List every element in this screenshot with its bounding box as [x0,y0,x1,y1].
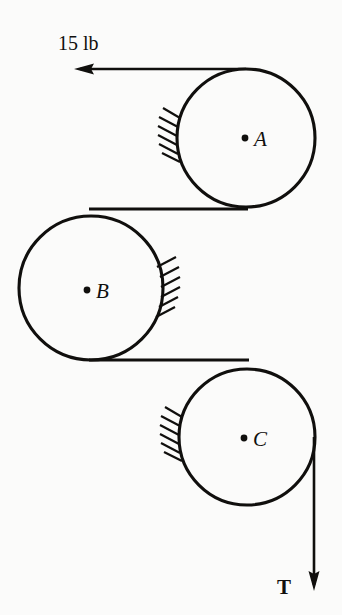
pulley-a-label: A [252,127,267,151]
pulley-b-group: B [19,216,180,360]
applied-force-label: 15 lb [58,32,99,54]
pulley-b [19,216,163,360]
applied-force-arrowhead [74,64,94,75]
pulley-c-center-dot [241,435,248,442]
pulley-a-group: A [158,69,315,207]
pulley-c-group: C [160,369,315,505]
diagram-canvas: A B [0,0,342,615]
pulley-diagram: A B [0,0,342,615]
pulley-b-label: B [96,279,109,303]
pulley-c-label: C [253,427,268,451]
pulley-a-center-dot [242,135,249,142]
wall-hatching-a [158,108,180,162]
pulley-b-center-dot [84,287,91,294]
wall-hatching-c [160,407,182,461]
tension-force-arrowhead [309,571,320,591]
tension-force-label: T [277,575,291,599]
